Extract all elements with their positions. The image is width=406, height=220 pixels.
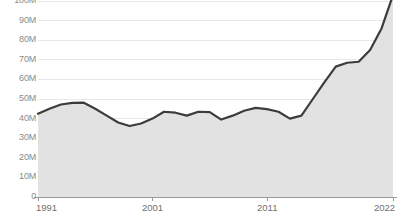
y-axis-tick-label: 20M xyxy=(2,153,36,162)
x-axis-tick-label: 1991 xyxy=(36,203,57,213)
area-chart-svg xyxy=(0,0,406,220)
y-axis-tick-labels: 010M20M30M40M50M60M70M80M90M100M xyxy=(0,0,36,220)
x-axis-tick-label: 2022 xyxy=(374,203,395,213)
chart-plot-area xyxy=(0,0,406,220)
x-axis-tick-label: 2001 xyxy=(142,203,163,213)
chart-container: 010M20M30M40M50M60M70M80M90M100M 1991200… xyxy=(0,0,406,220)
y-axis-tick-label: 70M xyxy=(2,55,36,64)
y-axis-tick-label: 80M xyxy=(2,35,36,44)
y-axis-tick-label: 30M xyxy=(2,133,36,142)
y-axis-tick-label: 90M xyxy=(2,16,36,25)
y-axis-tick-label: 60M xyxy=(2,74,36,83)
x-axis-tick-label: 2011 xyxy=(257,203,277,213)
x-tick-marks-group xyxy=(38,197,393,201)
y-axis-tick-label: 10M xyxy=(2,172,36,181)
y-axis-tick-label: 50M xyxy=(2,94,36,103)
y-axis-tick-label: 100M xyxy=(2,0,36,5)
y-axis-tick-label: 0 xyxy=(2,192,36,201)
y-axis-tick-label: 40M xyxy=(2,114,36,123)
